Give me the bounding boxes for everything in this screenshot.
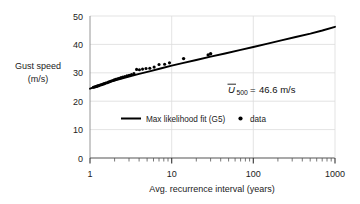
data-point (141, 68, 144, 71)
y-tick-label-30: 30 (73, 68, 83, 78)
data-point (168, 61, 171, 64)
annotation-equals: = (250, 84, 256, 95)
y-axis-title-line2: (m/s) (28, 74, 49, 84)
y-tick-label-40: 40 (73, 40, 83, 50)
y-axis-title: Gust speed (m/s) (15, 61, 61, 84)
annotation-value: 46.6 m/s (259, 84, 296, 95)
data-point (209, 52, 212, 55)
y-tick-labels: 50 40 30 20 10 0 (73, 12, 83, 164)
gust-speed-recurrence-chart: 50 40 30 20 10 0 1 10 100 1000 Gust spee… (0, 0, 360, 204)
legend-dot-marker (238, 116, 242, 120)
data-point (138, 68, 141, 71)
data-point (144, 67, 147, 70)
x-tick-label-1000: 1000 (325, 169, 345, 179)
x-tick-label-100: 100 (246, 169, 261, 179)
y-tick-label-0: 0 (78, 154, 83, 164)
annotation-subscript: 500 (237, 89, 249, 96)
legend-label-data: data (250, 115, 266, 124)
x-tick-label-1: 1 (87, 169, 92, 179)
data-point (182, 57, 185, 60)
annotation-symbol: U (228, 84, 235, 95)
x-tick-label-10: 10 (167, 169, 177, 179)
x-axis-title: Avg. recurrence interval (years) (149, 184, 274, 194)
data-point (163, 63, 166, 66)
x-tick-labels: 1 10 100 1000 (87, 169, 345, 179)
y-axis-title-line1: Gust speed (15, 61, 61, 71)
y-tick-label-20: 20 (73, 97, 83, 107)
legend-label-fit: Max likelihood fit (G5) (146, 115, 225, 124)
data-point (132, 72, 135, 75)
data-point (148, 67, 151, 70)
data-point (135, 68, 138, 71)
data-point (157, 63, 160, 66)
x-axis-major-ticks (90, 158, 335, 164)
y-tick-label-10: 10 (73, 125, 83, 135)
data-point (153, 66, 156, 69)
y-tick-label-50: 50 (73, 12, 83, 22)
chart-figure: 50 40 30 20 10 0 1 10 100 1000 Gust spee… (0, 0, 360, 204)
